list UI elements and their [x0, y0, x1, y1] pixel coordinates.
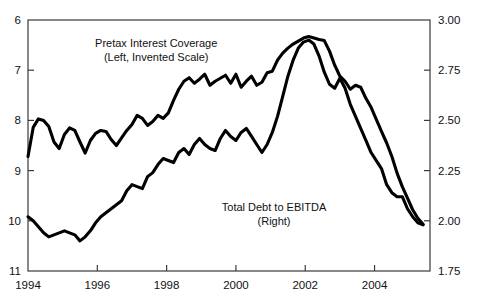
left-tick-label: 10	[8, 215, 21, 227]
x-tick-label: 1994	[15, 279, 41, 291]
right-tick-label: 2.50	[438, 114, 460, 126]
pretax-interest-coverage-label: Pretax Interest Coverage	[95, 37, 217, 49]
x-tick-label: 2000	[223, 279, 249, 291]
right-tick-label: 2.00	[438, 215, 460, 227]
total-debt-to-ebitda-label: (Right)	[258, 215, 291, 227]
total-debt-to-ebitda-label: Total Debt to EBITDA	[222, 201, 327, 213]
x-axis-ticks: 199419961998200020022004	[15, 265, 388, 291]
right-tick-label: 1.75	[438, 265, 460, 277]
left-tick-label: 9	[15, 165, 21, 177]
x-tick-label: 2002	[292, 279, 318, 291]
right-tick-label: 3.00	[438, 14, 460, 26]
x-tick-label: 1996	[85, 279, 111, 291]
x-tick-label: 2004	[362, 279, 388, 291]
left-tick-label: 6	[15, 14, 21, 26]
pretax-interest-coverage-label: (Left, Invented Scale)	[104, 51, 209, 63]
left-tick-label: 11	[9, 265, 21, 277]
dual-axis-line-chart: 67891011 1.752.002.252.502.753.00 199419…	[0, 0, 480, 307]
right-tick-label: 2.25	[438, 165, 460, 177]
left-tick-label: 8	[15, 114, 21, 126]
chart-figure: 67891011 1.752.002.252.502.753.00 199419…	[0, 0, 480, 307]
left-tick-label: 7	[15, 64, 21, 76]
right-tick-label: 2.75	[438, 64, 460, 76]
x-tick-label: 1998	[154, 279, 180, 291]
